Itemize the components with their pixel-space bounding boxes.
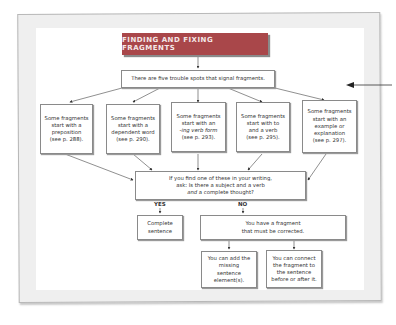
page-ref: (see p. 288). — [50, 136, 84, 142]
text: ask: Is there a subject and a verb — [176, 182, 265, 188]
top-box: There are five trouble spots that signal… — [121, 70, 275, 88]
top-box-text: There are five trouble spots that signal… — [131, 75, 265, 82]
no-label: NO — [238, 201, 247, 207]
text: You can connect the fragment to the sent… — [270, 255, 318, 284]
text: Some fragments — [177, 113, 221, 119]
trouble-spot-to-verb: Some fragmentsstart with toand a verb(se… — [236, 102, 290, 152]
text: Some fragments — [241, 113, 285, 119]
connect-fragment-box: You can connect the fragment to the sent… — [266, 250, 322, 288]
text: Some fragments — [45, 115, 89, 121]
add-elements-box: You can add the missing sentence element… — [201, 251, 257, 288]
text: start with an — [182, 120, 216, 126]
trouble-spot-ing-verb: Some fragmentsstart with an-ing verb for… — [171, 102, 226, 152]
text: start with a — [118, 122, 148, 128]
text: preposition — [52, 129, 82, 135]
text: If you find one of these in your writing… — [169, 175, 272, 181]
text: start with an — [313, 116, 347, 122]
page-ref: (see p. 295). — [246, 134, 280, 140]
text: You have a fragment that must be correct… — [241, 220, 305, 234]
page-ref: (see p. 297). — [313, 137, 347, 143]
text: Some fragments — [111, 115, 155, 121]
text: Some fragments — [308, 108, 352, 114]
text: example or explanation — [314, 123, 345, 136]
page-ref: (see p. 293). — [182, 134, 216, 140]
text: and a verb — [249, 127, 278, 133]
diagram-title: FINDING AND FIXING FRAGMENTS — [122, 33, 268, 55]
text: a complete thought? — [197, 189, 254, 195]
trouble-spot-dependent-word: Some fragmentsstart with adependent word… — [106, 104, 160, 154]
page-ref: (see p. 290). — [116, 136, 150, 142]
fragment-box: You have a fragment that must be correct… — [200, 215, 346, 240]
text: and — [187, 189, 197, 195]
text: -ing verb form — [180, 127, 218, 133]
text: Complete sentence — [140, 220, 180, 234]
yes-label: YES — [154, 201, 166, 207]
trouble-spot-preposition: Some fragmentsstart with apreposition(se… — [40, 104, 93, 154]
complete-sentence-box: Complete sentence — [137, 215, 183, 240]
text: You can add the missing sentence element… — [207, 255, 251, 284]
text: start with a — [51, 122, 81, 128]
text: dependent word — [111, 129, 154, 135]
question-box: If you find one of these in your writing… — [135, 171, 306, 200]
text: start with to — [247, 120, 279, 126]
trouble-spot-example: Some fragmentsstart with anexample or ex… — [302, 100, 357, 153]
